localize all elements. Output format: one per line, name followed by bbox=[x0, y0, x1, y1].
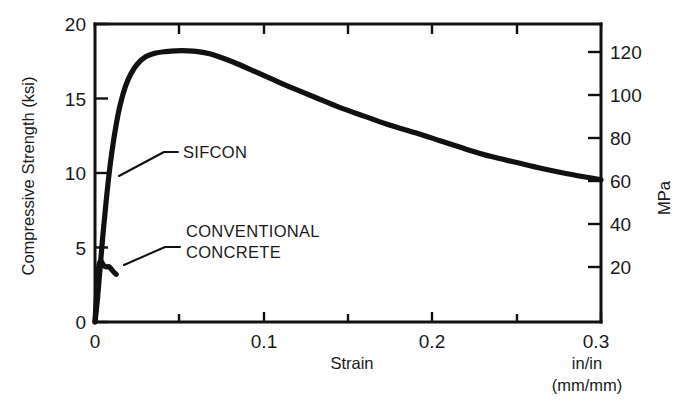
y2-axis-title: MPa bbox=[655, 180, 673, 215]
y2-tick-label-120: 120 bbox=[610, 42, 642, 63]
y-tick-label-15: 15 bbox=[65, 89, 86, 110]
sifcon-label: SIFCON bbox=[183, 143, 247, 161]
conventional-concrete-label-line1: CONVENTIONAL bbox=[186, 222, 320, 240]
y-tick-label-20: 20 bbox=[65, 14, 86, 35]
y-tick-label-5: 5 bbox=[75, 238, 86, 259]
chart-svg: 20 15 10 5 0 120 100 80 60 40 20 bbox=[0, 0, 694, 417]
stress-strain-chart: 20 15 10 5 0 120 100 80 60 40 20 bbox=[0, 0, 694, 417]
x-unit-primary-label: in/in bbox=[572, 354, 602, 372]
x-axis-title: Strain bbox=[330, 354, 373, 372]
y-tick-label-0: 0 bbox=[75, 312, 86, 333]
y-axis-title: Compressive Strength (ksi) bbox=[19, 77, 37, 276]
x-tick-label-0: 0 bbox=[90, 331, 101, 352]
x-tick-label-0-2: 0.2 bbox=[419, 331, 445, 352]
x-tick-label-0-3: 0.3 bbox=[583, 331, 609, 352]
y2-tick-label-60: 60 bbox=[610, 171, 631, 192]
y2-tick-label-20: 20 bbox=[610, 257, 631, 278]
x-tick-label-0-1: 0.1 bbox=[251, 331, 277, 352]
y2-tick-label-100: 100 bbox=[610, 85, 642, 106]
y2-tick-label-80: 80 bbox=[610, 128, 631, 149]
conventional-concrete-label-line2: CONCRETE bbox=[186, 243, 281, 261]
y2-tick-label-40: 40 bbox=[610, 214, 631, 235]
x-unit-secondary-label: (mm/mm) bbox=[552, 376, 623, 394]
y-tick-label-10: 10 bbox=[65, 163, 86, 184]
